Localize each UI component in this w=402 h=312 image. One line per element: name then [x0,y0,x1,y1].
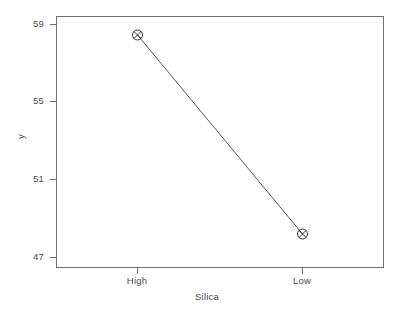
interaction-plot: 59 55 51 47 High Low Silica y [0,0,402,312]
x-axis-ticks [138,268,303,274]
y-tick-label-47: 47 [4,252,44,262]
x-tick-label-high: High [102,275,172,286]
y-axis-title: y [15,123,26,151]
y-tick-label-51: 51 [4,174,44,184]
y-tick-label-55: 55 [4,96,44,106]
plot-area [56,16,384,268]
x-tick-label-low: Low [267,275,337,286]
y-tick-label-59: 59 [4,19,44,29]
x-axis-title: Silica [147,291,267,302]
